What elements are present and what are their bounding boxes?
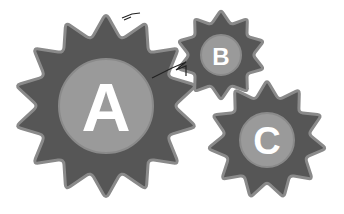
- gear-c: C: [209, 82, 324, 196]
- gear-diagram: B C A: [0, 0, 344, 214]
- gear-a-label: A: [81, 69, 130, 145]
- sketch-mark-top: [122, 13, 140, 20]
- gear-b-label: B: [212, 43, 229, 70]
- gear-c-label: C: [253, 120, 280, 162]
- gear-canvas: B C A: [0, 0, 344, 214]
- gear-a: A: [18, 15, 195, 196]
